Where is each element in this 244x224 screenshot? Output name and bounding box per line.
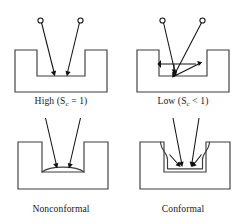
- flux-source-icon: [160, 18, 165, 23]
- caption-text-prefix: Conformal: [162, 203, 204, 214]
- arrow-head-icon: [197, 61, 202, 66]
- figure-canvas: [0, 0, 244, 224]
- panel-caption-nonconformal: Nonconformal: [0, 204, 122, 214]
- panel-top-right: [137, 18, 229, 92]
- panel-caption-high-sticking: High (Sc = 1): [0, 96, 122, 106]
- incident-flux-ray: [46, 118, 57, 164]
- caption-text-prefix: Low (S: [157, 95, 186, 106]
- caption-subscript: c: [65, 100, 68, 108]
- substrate-outline-bottom-left: [18, 142, 108, 189]
- step-coverage-figure: High (Sc = 1) Low (Sc < 1) Nonconformal …: [0, 0, 244, 224]
- incident-flux-ray: [175, 23, 202, 75]
- flux-source-icon: [38, 18, 43, 23]
- substrate-outline-top-right: [137, 50, 229, 92]
- arrow-head-icon: [51, 71, 56, 77]
- sidewall-flux-arrow: [194, 155, 202, 165]
- caption-text-prefix: Nonconformal: [32, 203, 89, 214]
- caption-subscript: c: [187, 100, 190, 108]
- incident-flux-ray: [70, 118, 81, 164]
- panel-caption-low-sticking: Low (Sc < 1): [122, 96, 244, 106]
- caption-text-suffix: < 1): [190, 95, 209, 106]
- incident-flux-ray: [164, 23, 175, 72]
- panel-bottom-left: [18, 118, 108, 189]
- conformal-film-liner: [161, 142, 210, 169]
- nonconformal-film-profile: [42, 167, 84, 172]
- incident-flux-ray: [173, 118, 182, 163]
- incident-flux-ray: [42, 23, 54, 72]
- caption-text-prefix: High (S: [35, 95, 66, 106]
- panel-bottom-right: [140, 118, 230, 189]
- incident-flux-ray: [192, 118, 199, 163]
- arrow-head-icon: [66, 71, 71, 77]
- panel-top-left: [15, 18, 107, 92]
- flux-source-icon: [200, 18, 205, 23]
- substrate-outline-top-left: [15, 50, 107, 92]
- substrate-outline-bottom-right: [140, 142, 230, 189]
- sidewall-flux-arrow: [170, 155, 179, 165]
- incident-flux-ray: [68, 23, 80, 72]
- panel-caption-conformal: Conformal: [122, 204, 244, 214]
- caption-text-suffix: = 1): [69, 95, 88, 106]
- flux-source-icon: [78, 18, 83, 23]
